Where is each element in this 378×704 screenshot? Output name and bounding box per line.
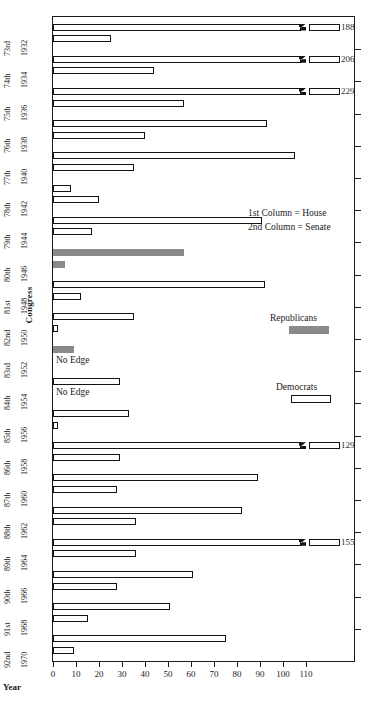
x-tick-label-60: 60 xyxy=(179,669,203,679)
bar-79th-senate-democrats xyxy=(53,228,92,235)
x-tick-90 xyxy=(260,662,261,667)
legend-democrats-swatch xyxy=(291,395,331,403)
bar-stub-75th-house xyxy=(309,88,340,95)
y-tick-12 xyxy=(355,403,361,404)
bar-75th-senate-democrats xyxy=(53,100,184,107)
y-tick-19 xyxy=(355,629,361,630)
y-tick-8 xyxy=(355,275,361,276)
x-tick-label-90: 90 xyxy=(248,669,272,679)
bar-75th-house-democrats xyxy=(53,88,301,95)
year-label-1958: 1958 xyxy=(20,458,29,474)
year-label-1934: 1934 xyxy=(20,72,29,88)
year-label-1938: 1938 xyxy=(20,136,29,152)
bar-85th-house-democrats xyxy=(53,410,129,417)
year-label-1956: 1956 xyxy=(20,426,29,442)
bar-81st-senate-democrats xyxy=(53,293,81,300)
bar-83rd-house-republicans xyxy=(53,346,74,353)
x-tick-30 xyxy=(122,662,123,667)
bar-74th-house-democrats xyxy=(53,56,301,63)
x-tick-label-50: 50 xyxy=(156,669,180,679)
congress-label-90th: 90th xyxy=(3,589,12,604)
x-tick-50 xyxy=(168,662,169,667)
year-label-1940: 1940 xyxy=(20,168,29,184)
x-tick-0 xyxy=(53,662,54,667)
y-tick-4 xyxy=(355,146,361,147)
congress-seat-margin-chart: Congress Year 73rd74th75th76th77th78th79… xyxy=(0,0,378,704)
no-edge-annotation-83rd: No Edge xyxy=(56,355,90,365)
bar-stub-74th-house xyxy=(309,56,340,63)
congress-label-87th: 87th xyxy=(3,492,12,507)
plot-area xyxy=(52,16,355,662)
bar-90th-senate-democrats xyxy=(53,583,117,590)
bar-87th-house-democrats xyxy=(53,474,258,481)
bar-91st-senate-democrats xyxy=(53,615,88,622)
year-label-1942: 1942 xyxy=(20,201,29,217)
y-tick-14 xyxy=(355,468,361,469)
congress-label-76th: 76th xyxy=(3,138,12,153)
bar-92nd-house-democrats xyxy=(53,635,226,642)
bar-89th-house-democrats xyxy=(53,539,301,546)
congress-label-79th: 79th xyxy=(3,235,12,250)
congress-label-83rd: 83rd xyxy=(3,363,12,378)
bar-76th-house-democrats xyxy=(53,120,267,127)
bar-value-89th-house: 155 xyxy=(341,537,355,547)
congress-label-92nd: 92nd xyxy=(3,651,12,667)
y-tick-2 xyxy=(355,81,361,82)
bar-77th-house-democrats xyxy=(53,152,295,159)
axis-break-marker xyxy=(299,442,306,449)
bar-86th-house-democrats xyxy=(53,442,301,449)
x-tick-60 xyxy=(191,662,192,667)
y-tick-1 xyxy=(355,49,361,50)
year-label-1962: 1962 xyxy=(20,523,29,539)
bar-78th-house-democrats xyxy=(53,185,71,192)
year-label-1932: 1932 xyxy=(20,40,29,56)
y-tick-15 xyxy=(355,500,361,501)
axis-break-marker xyxy=(299,539,306,546)
bar-74th-senate-democrats xyxy=(53,67,154,74)
congress-label-89th: 89th xyxy=(3,557,12,572)
bar-89th-senate-democrats xyxy=(53,550,136,557)
y-tick-7 xyxy=(355,242,361,243)
year-label-1952: 1952 xyxy=(20,362,29,378)
congress-label-86th: 86th xyxy=(3,460,12,475)
congress-label-82nd: 82nd xyxy=(3,329,12,345)
congress-label-84th: 84th xyxy=(3,396,12,411)
x-tick-label-70: 70 xyxy=(202,669,226,679)
bar-stub-89th-house xyxy=(309,539,340,546)
year-label-1950: 1950 xyxy=(20,329,29,345)
legend-note-senate: 2nd Column = Senate xyxy=(248,220,331,234)
x-tick-110 xyxy=(306,662,307,667)
y-tick-9 xyxy=(355,307,361,308)
y-tick-13 xyxy=(355,436,361,437)
congress-label-80th: 80th xyxy=(3,267,12,282)
congress-label-73rd: 73rd xyxy=(3,41,12,56)
y-tick-18 xyxy=(355,597,361,598)
legend-republicans-label: Republicans xyxy=(270,313,317,323)
congress-label-75th: 75th xyxy=(3,106,12,121)
bar-73rd-house-democrats xyxy=(53,24,301,31)
bar-90th-house-democrats xyxy=(53,571,193,578)
x-tick-80 xyxy=(237,662,238,667)
bar-value-75th-house: 229 xyxy=(341,86,355,96)
x-tick-label-20: 20 xyxy=(87,669,111,679)
bar-79th-house-democrats xyxy=(53,217,262,224)
congress-label-91st: 91st xyxy=(3,622,12,636)
year-label-1946: 1946 xyxy=(20,265,29,281)
y-tick-16 xyxy=(355,532,361,533)
congress-label-77th: 77th xyxy=(3,170,12,185)
bar-87th-senate-democrats xyxy=(53,486,117,493)
y-tick-6 xyxy=(355,210,361,211)
bar-84th-house-democrats xyxy=(53,378,120,385)
congress-label-85th: 85th xyxy=(3,428,12,443)
bar-91st-house-democrats xyxy=(53,603,170,610)
congress-label-81st: 81st xyxy=(3,300,12,314)
axis-break-marker xyxy=(299,88,306,95)
x-tick-label-30: 30 xyxy=(110,669,134,679)
bar-77th-senate-democrats xyxy=(53,164,134,171)
axis-break-marker xyxy=(299,24,306,31)
bar-76th-senate-democrats xyxy=(53,132,145,139)
x-tick-label-0: 0 xyxy=(41,669,65,679)
bar-92nd-senate-democrats xyxy=(53,647,74,654)
bar-73rd-senate-democrats xyxy=(53,35,111,42)
year-label-1966: 1966 xyxy=(20,587,29,603)
